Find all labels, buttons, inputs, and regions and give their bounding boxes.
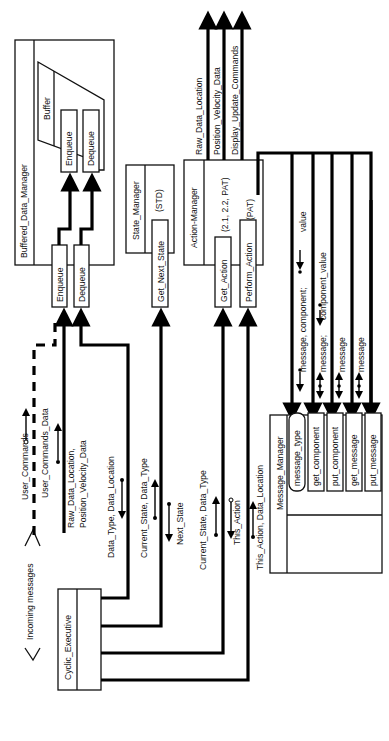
out-position-velocity-label: Position_Velocity_Data xyxy=(212,67,222,155)
svg-text:Dequeue: Dequeue xyxy=(77,267,87,302)
svg-text:Enqueue: Enqueue xyxy=(55,267,65,302)
svg-text:Data_Type, Data_Location: Data_Type, Data_Location xyxy=(106,456,116,558)
get-next-state-module[interactable]: Get_Next_State xyxy=(152,220,168,307)
svg-text:Next_State: Next_State xyxy=(175,502,185,545)
svg-text:message, component;: message, component; xyxy=(298,287,308,372)
svg-text:(2.1, 2.2, PAT): (2.1, 2.2, PAT) xyxy=(220,177,230,232)
cyclic-executive-module[interactable]: Cyclic_Executive xyxy=(58,589,101,690)
svg-text:Current_State, Data_Type: Current_State, Data_Type xyxy=(139,458,149,558)
get-component-function[interactable]: get_component xyxy=(308,413,324,491)
svg-text:message_type: message_type xyxy=(292,430,302,486)
svg-text:State_Manager: State_Manager xyxy=(131,181,141,240)
svg-text:Get_Next_State: Get_Next_State xyxy=(156,241,166,302)
svg-text:Cyclic_Executive: Cyclic_Executive xyxy=(63,615,73,680)
svg-text:Raw_Data_Location,: Raw_Data_Location, xyxy=(66,448,76,528)
incoming-messages-chevron-icon xyxy=(25,648,40,660)
svg-text:message: message xyxy=(337,337,347,372)
perform-action-module[interactable]: Perform_Action xyxy=(240,220,256,307)
svg-text:put_message: put_message xyxy=(368,434,378,486)
svg-text:User_Commands_Data: User_Commands_Data xyxy=(40,408,50,498)
dequeue-module[interactable]: Dequeue xyxy=(74,245,89,307)
svg-text:message: message xyxy=(356,337,366,372)
svg-text:get_message: get_message xyxy=(349,434,359,486)
svg-text:(STD): (STD) xyxy=(154,189,164,212)
svg-text:value: value xyxy=(298,211,308,232)
svg-text:Enqueue: Enqueue xyxy=(64,131,74,166)
get-action-module[interactable]: Get_Action xyxy=(215,237,231,307)
svg-text:Perform_Action: Perform_Action xyxy=(244,243,254,302)
put-component-function[interactable]: put_component xyxy=(327,413,343,491)
svg-text:Current_State, Data_Type: Current_State, Data_Type xyxy=(198,470,208,570)
enqueue-module[interactable]: Enqueue xyxy=(52,245,67,307)
buffered-data-manager-label: Buffered_Data_Manager xyxy=(19,164,29,258)
buffered-data-manager-module[interactable]: Buffered_Data_Manager Buffer Enqueue Deq… xyxy=(15,40,114,265)
svg-text:get_component: get_component xyxy=(311,426,321,486)
out-display-update-label: Display_Update_Commands xyxy=(230,46,240,155)
message-type-function[interactable]: message_type xyxy=(289,413,305,491)
svg-text:Dequeue: Dequeue xyxy=(86,131,96,166)
svg-text:put_component: put_component xyxy=(330,426,340,486)
get-message-function[interactable]: get_message xyxy=(346,413,362,491)
svg-text:Message_Manager: Message_Manager xyxy=(275,436,285,510)
out-raw-data-location-label: Raw_Data_Location xyxy=(194,77,204,155)
svg-text:Position_Velocity_Data: Position_Velocity_Data xyxy=(78,440,88,528)
put-message-function[interactable]: put_message xyxy=(365,413,381,491)
svg-text:Get_Action: Get_Action xyxy=(219,259,229,302)
svg-text:This_Action, Data_Location: This_Action, Data_Location xyxy=(255,465,265,570)
buffer-label: Buffer xyxy=(42,97,52,120)
cyclic-to-dequeue-line xyxy=(81,317,128,598)
svg-text:This_Action: This_Action xyxy=(232,500,242,545)
svg-text:Action-Manager: Action-Manager xyxy=(189,187,199,248)
incoming-messages-label: Incoming messages xyxy=(25,564,35,640)
svg-text:message;: message; xyxy=(318,335,328,372)
structure-chart: Buffered_Data_Manager Buffer Enqueue Deq… xyxy=(0,0,389,741)
svg-text:component_value: component_value xyxy=(318,252,328,320)
svg-text:(PAT): (PAT) xyxy=(245,199,255,220)
